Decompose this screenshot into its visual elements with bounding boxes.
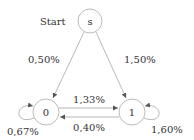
node-s: s xyxy=(78,9,102,33)
state-diagram: Start s 0 1 0,50% 1,50% 1,33% 0,40% 0,67… xyxy=(0,0,194,140)
edge-1-0-label: 0,40% xyxy=(73,122,105,133)
edge-s-0-label: 0,50% xyxy=(28,54,60,65)
loop-0-label: 0,67% xyxy=(7,126,39,137)
node-s-label: s xyxy=(87,16,92,27)
edge-1-to-0: 0,40% xyxy=(60,117,119,133)
edge-0-1-label: 1,33% xyxy=(73,94,105,105)
edge-0-to-1: 1,33% xyxy=(59,94,118,108)
node-0: 0 xyxy=(33,99,59,125)
loop-1-label: 1,60% xyxy=(151,124,183,135)
start-label: Start xyxy=(40,16,66,27)
edge-s-to-0: 0,50% xyxy=(28,32,84,98)
node-1: 1 xyxy=(119,99,145,125)
node-0-label: 0 xyxy=(43,107,49,118)
edge-s-1-label: 1,50% xyxy=(124,54,156,65)
node-1-label: 1 xyxy=(129,107,135,118)
edge-s-to-1: 1,50% xyxy=(96,32,156,98)
self-loop-1: 1,60% xyxy=(144,106,183,135)
